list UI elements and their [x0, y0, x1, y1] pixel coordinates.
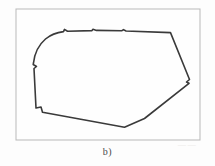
figure-frame-border	[16, 9, 200, 140]
figure-caption: b)	[0, 146, 215, 157]
figure-canvas: ──── ──── ─ ─ ─ ─ ─ ─ ──	[0, 0, 215, 166]
figure-container: ──── ──── ─ ─ ─ ─ ─ ─ ── b)	[0, 0, 215, 166]
